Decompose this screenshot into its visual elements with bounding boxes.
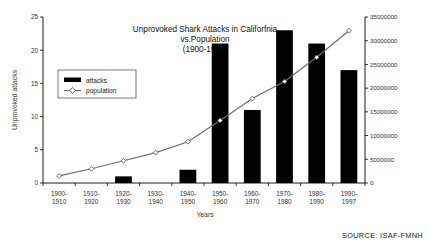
x-tick-label: 1970- [276, 190, 292, 197]
y2-tick-label: 0 [370, 179, 374, 186]
chart-title-line-3: (1900-1997) [183, 45, 228, 54]
x-tick-label: 1980- [309, 190, 325, 197]
legend-swatch-attacks [64, 78, 81, 83]
chart-title-line-2: vs.Population [180, 35, 230, 44]
y-tick-label: 10 [31, 113, 39, 120]
bar-1970-1980 [276, 30, 293, 183]
population-marker-1910-1920 [89, 166, 94, 171]
x-tick-label: 1920 [84, 198, 99, 205]
population-marker-1900-1910 [57, 173, 62, 178]
chart-title-line-1: Unprovoked Shark Attacks in Califorfnia [133, 25, 278, 34]
bar-1950-1960 [212, 44, 229, 183]
x-tick-label: 1930- [148, 190, 164, 197]
chart-legend: attacks population [58, 70, 136, 98]
x-tick-label: 1960 [213, 198, 228, 205]
chart-title: Unprovoked Shark Attacks in Califorfnia … [133, 25, 278, 54]
y-axis-title: Unprovoked attacks [11, 69, 19, 130]
x-tick-label: 1940 [149, 198, 164, 205]
x-tick-label: 1997 [342, 198, 357, 205]
bar-1980-1990 [308, 44, 325, 183]
bar-1990-1997 [341, 70, 358, 183]
x-tick-label: 1950- [212, 190, 228, 197]
y2-tick-label: 35000000 [370, 13, 398, 20]
y2-tick-label: 25000000 [370, 61, 398, 68]
x-tick-label: 1920- [115, 190, 131, 197]
bar-1960-1970 [244, 110, 261, 183]
x-tick-label: 1940- [180, 190, 196, 197]
x-tick-label: 1930 [116, 198, 131, 205]
bar-1920-1930 [115, 176, 132, 183]
population-marker-1920-1930 [121, 158, 126, 163]
x-tick-label: 1900- [51, 190, 67, 197]
y2-tick-label: 5000000 [370, 156, 395, 163]
y-tick-label: 25 [31, 13, 39, 20]
chart-canvas: 0510152025050000001000000015000000200000… [0, 0, 429, 252]
population-marker-1930-1940 [153, 150, 158, 155]
bar-1940-1950 [180, 170, 197, 183]
x-tick-label: 1960- [244, 190, 260, 197]
source-note: SOURCE: ISAF-FMNH [342, 231, 423, 240]
y-tick-label: 5 [34, 146, 38, 153]
x-tick-label: 1990 [310, 198, 325, 205]
chart-figure: 0510152025050000001000000015000000200000… [0, 0, 429, 252]
x-tick-label: 1910- [83, 190, 99, 197]
y-tick-label: 0 [34, 179, 38, 186]
y-tick-label: 20 [31, 47, 39, 54]
y-tick-label: 15 [31, 80, 39, 87]
y2-tick-label: 10000000 [370, 132, 398, 139]
x-tick-label: 1990- [341, 190, 357, 197]
x-tick-label: 1980 [277, 198, 292, 205]
y2-tick-label: 30000000 [370, 37, 398, 44]
legend-label-population: population [86, 87, 117, 95]
x-tick-label: 1970 [245, 198, 260, 205]
x-axis-title: Years [196, 211, 214, 218]
y2-tick-label: 15000000 [370, 108, 398, 115]
x-tick-label: 1950 [181, 198, 196, 205]
legend-label-attacks: attacks [86, 77, 108, 84]
x-tick-label: 1910 [52, 198, 67, 205]
y2-tick-label: 20000000 [370, 84, 398, 91]
